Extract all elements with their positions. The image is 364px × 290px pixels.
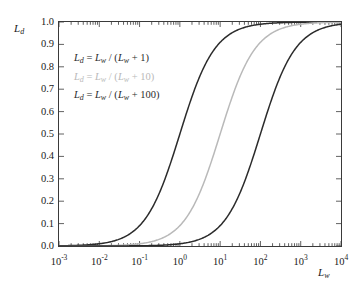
x-axis-title: Lw — [318, 266, 329, 280]
legend-entry: Ld = Lw / (Lw + 10) — [74, 69, 159, 88]
y-axis-tick-labels: 1.00.90.80.70.60.50.40.30.20.10.0 — [4, 0, 54, 290]
x-tick-label: 100 — [173, 253, 187, 267]
legend-entry: Ld = Lw / (Lw + 1) — [74, 50, 159, 69]
y-tick-label: 0.6 — [6, 107, 54, 117]
x-tick-label: 101 — [213, 253, 227, 267]
x-tick-label: 102 — [253, 253, 267, 267]
chart-figure: Ld Lw 1.00.90.80.70.60.50.40.30.20.10.0 … — [0, 0, 364, 290]
x-tick-label: 103 — [294, 253, 308, 267]
x-tick-label: 104 — [334, 253, 348, 267]
y-tick-label: 0.9 — [6, 39, 54, 49]
legend: Ld = Lw / (Lw + 1)Ld = Lw / (Lw + 10)Ld … — [74, 50, 159, 106]
y-tick-label: 0.2 — [6, 196, 54, 206]
y-tick-label: 0.0 — [6, 241, 54, 251]
x-tick-label: 10-3 — [51, 253, 68, 267]
y-tick-label: 0.5 — [6, 129, 54, 139]
y-tick-label: 0.4 — [6, 151, 54, 161]
x-tick-label: 10-1 — [131, 253, 148, 267]
y-tick-label: 0.8 — [6, 62, 54, 72]
y-tick-label: 0.7 — [6, 84, 54, 94]
legend-entry: Ld = Lw / (Lw + 100) — [74, 87, 159, 106]
y-tick-label: 0.1 — [6, 219, 54, 229]
y-tick-label: 1.0 — [6, 17, 54, 27]
y-tick-label: 0.3 — [6, 174, 54, 184]
x-tick-label: 10-2 — [91, 253, 108, 267]
